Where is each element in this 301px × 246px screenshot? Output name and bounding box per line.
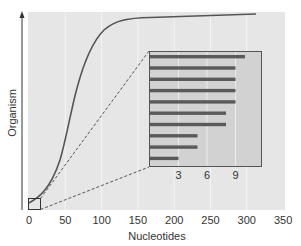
inset-bar (150, 145, 198, 148)
x-tick-label: 250 (201, 214, 219, 226)
inset-bar (150, 157, 179, 160)
inset-bar (150, 66, 236, 69)
x-tick-label: 150 (129, 214, 147, 226)
inset-tick-label: 3 (175, 169, 181, 181)
inset-tick-label: 6 (204, 169, 210, 181)
inset-bar (150, 112, 226, 115)
y-axis-label: Organism (6, 89, 18, 137)
x-axis-label: Nucleotides (128, 230, 186, 242)
x-tick-labels: 050100150200250300350 (26, 214, 292, 226)
inset-bar (150, 78, 236, 81)
x-tick-label: 100 (92, 214, 110, 226)
y-axis-arrow-icon (20, 11, 25, 18)
x-tick-label: 350 (274, 214, 292, 226)
inset-bar (150, 89, 236, 92)
inset-bar (150, 100, 236, 103)
inset-bar (150, 134, 198, 137)
chart: 369 050100150200250300350 Nucleotides Or… (0, 0, 301, 246)
x-tick-label: 50 (59, 214, 71, 226)
x-tick-label: 0 (26, 214, 32, 226)
inset-bar (150, 55, 245, 58)
x-tick-label: 300 (238, 214, 256, 226)
inset-tick-label: 9 (232, 169, 238, 181)
inset-chart: 369 (150, 52, 262, 182)
inset-bar (150, 123, 226, 126)
x-tick-label: 200 (165, 214, 183, 226)
